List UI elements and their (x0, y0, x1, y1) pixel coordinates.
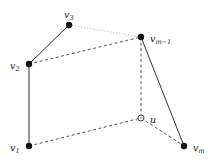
node-label-main: u (150, 114, 156, 125)
node-label-vm: vm (193, 142, 205, 155)
node-vm1 (138, 34, 144, 40)
edge-v2-vm1 (29, 37, 141, 64)
node-label-v1: v1 (10, 142, 20, 155)
node-v1 (26, 143, 32, 149)
node-label-vm1: vm−1 (150, 33, 171, 46)
edge-v1-u (29, 118, 141, 146)
node-label-subscript: m (198, 147, 204, 155)
node-label-v2: v2 (10, 60, 20, 73)
node-u-center-dot (140, 117, 142, 119)
node-label-subscript: m−1 (155, 38, 171, 46)
node-label-subscript: 1 (15, 147, 19, 155)
node-label-subscript: 2 (14, 65, 19, 73)
node-label-subscript: 3 (69, 14, 73, 22)
node-v3 (66, 22, 72, 28)
node-vm (181, 143, 187, 149)
node-label-v3: v3 (64, 9, 74, 22)
edge-v3-v2 (29, 25, 69, 64)
edge-u-vm (141, 118, 184, 146)
graph-diagram: v3v2v1vm−1uvm (0, 0, 214, 161)
node-label-u: u (150, 114, 156, 125)
labels-layer: v3v2v1vm−1uvm (10, 9, 205, 155)
edge-vm1-vm (141, 37, 184, 146)
node-v2 (26, 61, 32, 67)
edge-v3-vm1 (69, 25, 141, 37)
